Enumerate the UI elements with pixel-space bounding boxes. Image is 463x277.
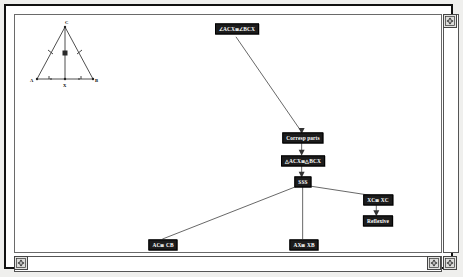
base-tick-right xyxy=(78,78,80,80)
node-ac-congruent-cb[interactable]: AC≅ CB xyxy=(148,239,177,250)
scroll-left-icon xyxy=(16,258,26,268)
vertical-scrollbar[interactable] xyxy=(443,14,459,253)
triangle-label-B: B xyxy=(95,79,98,84)
triangle-label-X: X xyxy=(63,84,66,89)
triangle-svg xyxy=(27,17,113,95)
resize-corner[interactable] xyxy=(443,256,457,270)
vertex-dot-A xyxy=(36,78,38,80)
proof-canvas[interactable]: C A B X ∠ACX≅∠BCX Corresp parts △ACX≅△BC… xyxy=(14,14,442,253)
vertex-dot-B xyxy=(92,78,94,80)
vertex-dot-C xyxy=(64,26,66,28)
triangle-label-A: A xyxy=(30,79,33,84)
edge-angles-corresp xyxy=(236,37,302,132)
node-xc-congruent-xc[interactable]: XC≅ XC xyxy=(363,194,393,205)
vertex-dot-X xyxy=(64,78,66,80)
node-triangle-congruence[interactable]: △ACX≅△BCX xyxy=(281,155,325,166)
scroll-up-icon xyxy=(445,16,455,26)
scroll-up-button[interactable] xyxy=(443,14,457,28)
triangle-side-AC xyxy=(37,27,65,79)
scroll-right-button[interactable] xyxy=(427,256,441,270)
horizontal-scrollbar[interactable] xyxy=(14,256,442,272)
window-frame: C A B X ∠ACX≅∠BCX Corresp parts △ACX≅△BC… xyxy=(4,4,453,269)
node-corresponding-parts[interactable]: Corresp parts xyxy=(282,132,323,143)
node-angle-congruence[interactable]: ∠ACX≅∠BCX xyxy=(215,23,259,34)
edge-sss-xc xyxy=(307,186,372,196)
application-window: C A B X ∠ACX≅∠BCX Corresp parts △ACX≅△BC… xyxy=(0,0,463,277)
resize-corner-icon xyxy=(445,258,455,268)
node-sss[interactable]: SSS xyxy=(294,176,311,187)
right-angle-mark xyxy=(63,51,68,56)
scroll-right-icon xyxy=(429,258,439,268)
triangle-label-C: C xyxy=(65,21,68,26)
node-ax-congruent-xb[interactable]: AX≅ XB xyxy=(289,239,318,250)
base-tick-left xyxy=(50,78,52,80)
isosceles-triangle-figure: C A B X xyxy=(27,17,113,95)
triangle-side-BC xyxy=(65,27,93,79)
edge-sss-ac xyxy=(162,186,298,240)
node-reflexive[interactable]: Reflexive xyxy=(363,215,393,226)
scroll-left-button[interactable] xyxy=(14,256,28,270)
